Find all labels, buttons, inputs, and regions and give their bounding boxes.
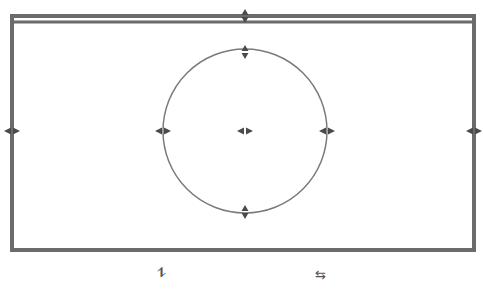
- circle-bottom-handle[interactable]: [242, 205, 249, 219]
- vertical-flip-icon[interactable]: ⥮: [157, 266, 166, 279]
- circle-center-handle[interactable]: [237, 128, 253, 135]
- vertical-arrows-icon: [242, 205, 249, 219]
- diagram-canvas: [0, 0, 483, 289]
- circle-top-handle[interactable]: [242, 45, 249, 59]
- horizontal-arrows-icon: [237, 128, 253, 135]
- circle-shape[interactable]: [163, 49, 327, 213]
- horizontal-swap-icon[interactable]: ⇆: [315, 268, 326, 281]
- vertical-arrows-icon: [242, 45, 249, 59]
